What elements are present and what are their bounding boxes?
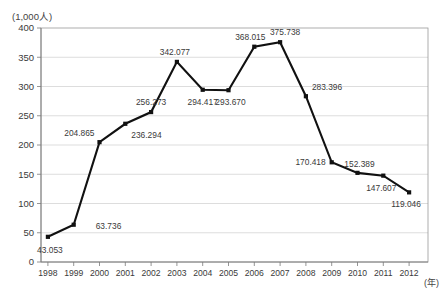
y-axis-ticks: 400350300250200150100500 — [18, 22, 41, 267]
data-point-label: 342.077 — [160, 47, 191, 57]
data-point-marker — [407, 190, 411, 194]
y-tick-label: 250 — [18, 110, 34, 121]
data-point-label: 294.417 — [188, 97, 219, 107]
data-point-label: 170.418 — [295, 157, 326, 167]
y-tick-label: 300 — [18, 81, 34, 92]
x-tick-label: 2006 — [245, 268, 264, 278]
data-point-marker — [72, 223, 76, 227]
data-point-marker — [201, 88, 205, 92]
data-point-label: 43.053 — [37, 245, 63, 255]
data-point-marker — [175, 60, 179, 64]
data-point-label: 283.396 — [312, 82, 343, 92]
x-axis-ticks: 1998199920002001200220032004200520062007… — [38, 262, 419, 278]
data-point-label: 204.865 — [64, 128, 95, 138]
data-point-marker — [46, 235, 50, 239]
data-point-labels: 43.05363.736204.865236.294256.273342.077… — [37, 27, 421, 255]
x-tick-label: 1998 — [38, 268, 57, 278]
data-point-marker — [278, 40, 282, 44]
data-point-label: 256.273 — [136, 97, 167, 107]
data-point-label: 368.015 — [235, 32, 266, 42]
x-tick-label: 2002 — [142, 268, 161, 278]
y-tick-label: 150 — [18, 169, 34, 180]
data-point-marker — [123, 122, 127, 126]
data-point-label: 375.738 — [270, 27, 301, 37]
x-tick-label: 2009 — [322, 268, 341, 278]
data-point-label: 236.294 — [131, 130, 162, 140]
data-series-line — [48, 42, 409, 237]
x-tick-label: 2005 — [219, 268, 238, 278]
x-tick-label: 2012 — [400, 268, 419, 278]
data-point-markers — [46, 40, 411, 239]
data-point-label: 119.046 — [391, 199, 421, 209]
data-point-marker — [252, 45, 256, 49]
y-tick-label: 50 — [23, 227, 34, 238]
data-point-marker — [304, 94, 308, 98]
data-point-marker — [226, 88, 230, 92]
x-tick-label: 2008 — [296, 268, 315, 278]
data-point-marker — [381, 174, 385, 178]
x-tick-label: 2004 — [193, 268, 212, 278]
y-tick-label: 100 — [18, 198, 34, 209]
data-point-marker — [149, 110, 153, 114]
x-tick-label: 2011 — [374, 268, 393, 278]
x-tick-label: 2007 — [271, 268, 290, 278]
data-point-marker — [355, 171, 359, 175]
x-tick-label: 1999 — [64, 268, 83, 278]
x-tick-label: 2003 — [167, 268, 186, 278]
data-point-label: 293.670 — [215, 97, 246, 107]
y-tick-label: 400 — [18, 22, 34, 33]
y-tick-label: 0 — [29, 256, 34, 267]
x-tick-label: 2001 — [116, 268, 135, 278]
data-point-marker — [97, 140, 101, 144]
data-point-label: 147.607 — [366, 183, 397, 193]
y-tick-label: 200 — [18, 139, 34, 150]
series-polyline — [48, 42, 409, 237]
data-point-label: 152.389 — [344, 159, 375, 169]
y-tick-label: 350 — [18, 52, 34, 63]
line-chart: (1,000人) (年) 400350300250200150100500 19… — [0, 0, 445, 293]
data-point-marker — [330, 160, 334, 164]
x-tick-label: 2000 — [90, 268, 109, 278]
data-point-label: 63.736 — [96, 221, 122, 231]
chart-canvas: 400350300250200150100500 199819992000200… — [0, 0, 445, 293]
x-tick-label: 2010 — [348, 268, 367, 278]
